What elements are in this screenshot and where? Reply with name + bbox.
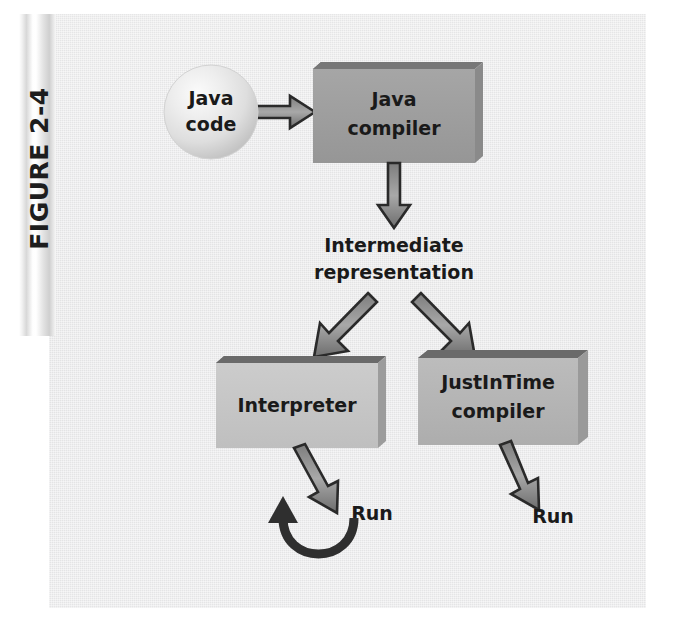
edge-java-code-to-java-compiler [249,96,315,128]
node-java-compiler[interactable]: Java compiler [313,62,483,163]
arrow-diagonal-ir-to-jit [412,293,475,357]
java-compiler-label-line2: compiler [348,117,442,139]
loop-curve [283,518,354,554]
jit-label-line2: compiler [452,400,546,422]
java-compiler-right-face [475,62,483,163]
arrow-jit-to-run [500,441,539,510]
java-code-label-line2: code [186,113,237,135]
edge-java-compiler-to-intermediate [378,163,410,228]
java-compiler-front-face [313,69,475,163]
java-execution-flowchart: Java code Java compiler Intermediate rep… [0,0,693,637]
edge-jit-to-run [500,441,539,510]
edge-interpreter-to-run [294,444,338,513]
edge-intermediate-to-interpreter [314,293,377,357]
interpreter-label: Interpreter [237,394,357,416]
figure-page: FIGURE 2-4 [0,0,693,637]
node-intermediate-representation: Intermediate representation [314,234,474,283]
edge-intermediate-to-jit [412,293,475,357]
java-compiler-label-line1: Java [369,88,416,110]
java-code-sphere [164,65,258,159]
node-run-right: Run [532,505,574,527]
jit-top-face [418,350,588,358]
java-compiler-top-face [313,62,483,69]
edge-run-loop-back [268,496,354,554]
jit-right-face [578,350,588,445]
node-justintime-compiler[interactable]: JustInTime compiler [418,350,588,445]
jit-label-line1: JustInTime [439,371,555,393]
interpreter-right-face [378,356,386,448]
node-java-code[interactable]: Java code [164,65,258,159]
arrow-right-code-to-compiler [249,96,315,128]
run-right-label: Run [532,505,574,527]
loop-arrowhead [268,496,298,523]
arrow-diagonal-ir-to-interpreter [314,293,377,357]
arrow-down-compiler-to-ir [378,163,410,228]
intermediate-representation-label-line1: Intermediate [324,234,464,256]
arrow-interpreter-to-run [294,444,338,513]
java-code-label-line1: Java [186,87,233,109]
interpreter-top-face [216,356,386,363]
node-interpreter[interactable]: Interpreter [216,356,386,448]
intermediate-representation-label-line2: representation [314,261,474,283]
